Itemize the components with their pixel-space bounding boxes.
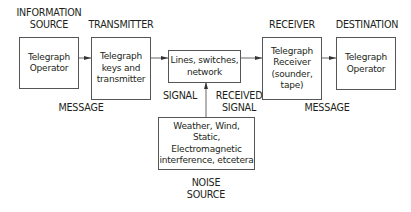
- message-right-label: MESSAGE: [302, 102, 352, 114]
- destination-text: Telegraph Operator: [345, 52, 387, 75]
- receiver-box: Telegraph Receiver (sounder, tape): [262, 37, 322, 100]
- info-source-text: Telegraph Operator: [28, 52, 70, 75]
- channel-text: Lines, switches, network: [171, 55, 239, 78]
- transmitter-heading: TRANSMITTER: [88, 19, 154, 31]
- receiver-heading: RECEIVER: [258, 19, 326, 31]
- info-source-box: Telegraph Operator: [19, 37, 79, 89]
- arrow-icon: [255, 56, 262, 60]
- arrow-icon: [329, 56, 336, 60]
- transmitter-box: Telegraph keys and transmitter: [91, 37, 151, 100]
- message-left-label: MESSAGE: [56, 102, 106, 114]
- arrow-icon: [84, 56, 91, 60]
- noise-heading: NOISE SOURCE: [176, 177, 236, 200]
- destination-heading: DESTINATION: [330, 19, 404, 31]
- signal-label: SIGNAL: [160, 90, 200, 102]
- noise-box: Weather, Wind, Static, Electromagnetic i…: [158, 117, 255, 170]
- transmitter-text: Telegraph keys and transmitter: [97, 51, 146, 86]
- receiver-text: Telegraph Receiver (sounder, tape): [271, 46, 313, 92]
- destination-box: Telegraph Operator: [336, 37, 396, 90]
- noise-text: Weather, Wind, Static, Electromagnetic i…: [159, 121, 254, 167]
- arrow-up-icon: [204, 82, 208, 89]
- received-signal-label: RECEIVED SIGNAL: [211, 90, 267, 113]
- channel-box: Lines, switches, network: [168, 50, 241, 83]
- arrow-icon: [161, 56, 168, 60]
- info-source-heading: INFORMATION SOURCE: [10, 7, 88, 30]
